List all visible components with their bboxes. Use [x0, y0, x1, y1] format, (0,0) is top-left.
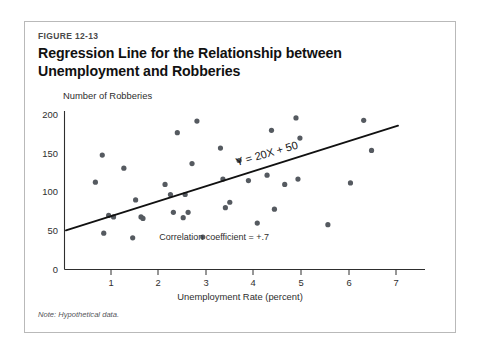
- y-axis-title: Number of Robberies: [63, 90, 152, 101]
- data-point: [369, 148, 374, 153]
- x-tick-label: 1: [108, 277, 113, 288]
- data-point: [255, 221, 260, 226]
- data-point: [162, 182, 167, 187]
- data-point: [223, 205, 228, 210]
- y-tick-label: 0: [53, 264, 58, 275]
- data-point: [348, 180, 353, 185]
- data-point: [171, 210, 176, 215]
- data-point: [140, 216, 145, 221]
- regression-line: [66, 126, 398, 231]
- data-point: [272, 207, 277, 212]
- data-point: [189, 161, 194, 166]
- data-point: [133, 197, 138, 202]
- figure-note: Note: Hypothetical data.: [38, 310, 119, 319]
- x-tick-marks: [111, 270, 396, 276]
- data-point: [246, 178, 251, 183]
- x-tick-label: 7: [393, 277, 398, 288]
- data-point: [186, 210, 191, 215]
- correlation-annotation: Correlation coefficient = +.7: [159, 232, 269, 242]
- x-tick-label: 5: [298, 277, 303, 288]
- data-point: [227, 200, 232, 205]
- data-point: [269, 128, 274, 133]
- data-point: [361, 118, 366, 123]
- regression-equation-label: Y = 20X + 50: [234, 139, 299, 168]
- x-tick-labels: 1 2 3 4 5 6 7: [108, 277, 398, 288]
- x-axis-title: Unemployment Rate (percent): [177, 291, 303, 302]
- data-point: [93, 180, 98, 185]
- data-point: [101, 231, 106, 236]
- x-tick-label: 4: [250, 277, 255, 288]
- scatter-plot: Number of Robberies 200 150 100 50 0: [25, 22, 457, 334]
- data-point: [297, 135, 302, 140]
- data-point: [325, 222, 330, 227]
- data-point: [130, 235, 135, 240]
- data-point: [218, 146, 223, 151]
- figure-card: FIGURE 12-13 Regression Line for the Rel…: [24, 21, 456, 333]
- data-point: [100, 152, 105, 157]
- x-tick-label: 2: [155, 277, 160, 288]
- x-tick-label: 3: [203, 277, 208, 288]
- data-point: [282, 182, 287, 187]
- y-tick-label: 200: [42, 109, 58, 120]
- data-point: [194, 118, 199, 123]
- chart-svg: Number of Robberies 200 150 100 50 0: [25, 22, 457, 334]
- data-point: [295, 176, 300, 181]
- data-point: [181, 215, 186, 220]
- data-point: [121, 166, 126, 171]
- y-tick-label: 100: [42, 186, 58, 197]
- data-point: [264, 173, 269, 178]
- y-tick-label: 150: [42, 148, 58, 159]
- data-point: [293, 115, 298, 120]
- y-tick-labels: 200 150 100 50 0: [42, 109, 58, 275]
- x-tick-label: 6: [346, 277, 351, 288]
- data-point: [175, 130, 180, 135]
- y-tick-label: 50: [48, 225, 58, 236]
